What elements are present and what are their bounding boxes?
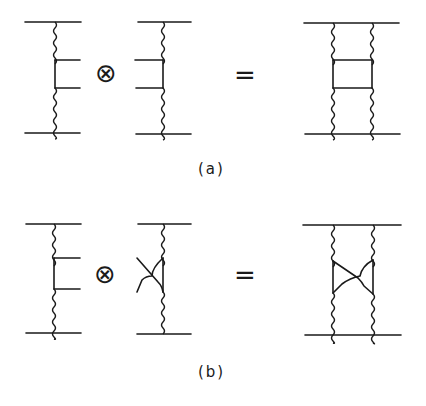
tensor-product-operator-b: ⊗ — [94, 261, 116, 287]
panel-a-result-box-diagram — [304, 23, 400, 140]
panel-b-result-crossed-box-diagram — [303, 225, 401, 344]
panel-b-left-term — [26, 224, 81, 339]
caption-a: (a) — [198, 160, 225, 178]
panel-b — [26, 224, 401, 344]
tensor-product-operator-a: ⊗ — [95, 60, 117, 86]
equals-operator-a: = — [234, 60, 256, 90]
panel-a — [25, 22, 400, 140]
feynman-diagram-figure — [0, 0, 426, 406]
equals-operator-b: = — [234, 260, 256, 290]
panel-a-left-term — [25, 22, 81, 139]
caption-b: (b) — [198, 363, 225, 381]
panel-a-middle-term — [135, 22, 191, 140]
panel-b-middle-term-crossed — [137, 224, 191, 334]
